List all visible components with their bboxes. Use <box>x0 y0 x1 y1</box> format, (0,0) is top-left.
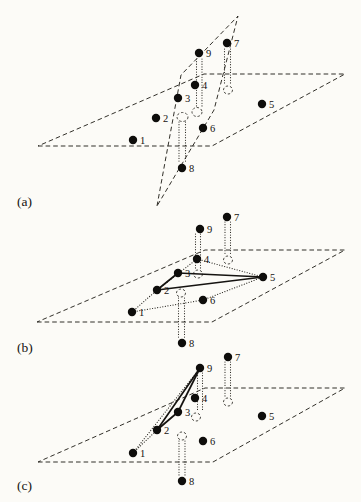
figure-page: 123456789(a)123456789(b)123456789(c) <box>0 0 361 502</box>
subfigure-c-point-dot-9 <box>196 364 204 372</box>
subfigure-a-point-dot-6 <box>199 124 207 132</box>
subfigure-b-point-label-3: 3 <box>185 268 190 279</box>
subfigure-a-point-label-6: 6 <box>210 123 215 134</box>
subfigure-c-point-label-2: 2 <box>164 425 169 436</box>
subfigure-c-point-dot-7 <box>224 353 232 361</box>
subfigure-c-solid-edge-3-9 <box>178 368 200 412</box>
subfigure-b-point-dot-3 <box>174 269 182 277</box>
planes-points-figure: 123456789(a)123456789(b)123456789(c) <box>0 0 361 502</box>
subfigure-c-point-dot-2 <box>153 426 161 434</box>
subfigure-c-point-dot-5 <box>258 412 266 420</box>
subfigure-c-point-label-9: 9 <box>207 363 212 374</box>
subfigure-a-point-dot-8 <box>178 164 186 172</box>
subfigure-c-point-label-4: 4 <box>202 393 208 404</box>
subfigure-b-point-dot-4 <box>193 255 201 263</box>
subfigure-c-point-dot-3 <box>174 408 182 416</box>
subfigure-b-point-label-8: 8 <box>189 338 194 349</box>
subfigure-label-c: (c) <box>17 478 32 493</box>
subfigure-b-point-dot-7 <box>223 213 231 221</box>
subfigure-b-point-dot-2 <box>153 286 161 294</box>
subfigure-c-projection-mark-9 <box>192 413 201 421</box>
subfigure-b-point-dot-1 <box>128 308 136 316</box>
subfigure-a-point-label-5: 5 <box>269 99 274 110</box>
subfigure-b-point-label-1: 1 <box>139 307 144 318</box>
subfigure-b-projection-mark-7 <box>224 256 233 264</box>
subfigure-a-point-label-1: 1 <box>140 135 145 146</box>
subfigure-a-point-dot-5 <box>258 100 266 108</box>
subfigure-a-projection-mark-7 <box>224 86 233 94</box>
subfigure-a-point-dot-4 <box>191 81 199 89</box>
subfigure-b-projection-mark-8 <box>177 289 186 297</box>
subfigure-c-point-label-6: 6 <box>210 436 215 447</box>
subfigure-b-point-dot-8 <box>178 339 186 347</box>
subfigure-a-point-label-4: 4 <box>202 80 208 91</box>
subfigure-c-projection-mark-8 <box>178 432 187 440</box>
subfigure-c-point-label-1: 1 <box>140 448 145 459</box>
subfigure-a-point-dot-1 <box>129 136 137 144</box>
subfigure-c-point-label-7: 7 <box>235 352 240 363</box>
subfigure-b-dotted-edge-1-2 <box>132 290 157 312</box>
subfigure-b-point-label-2: 2 <box>164 285 169 296</box>
subfigure-a-point-dot-9 <box>195 49 203 57</box>
subfigure-a-point-dot-3 <box>174 94 182 102</box>
subfigure-c-point-dot-8 <box>178 477 186 485</box>
subfigure-c-point-label-3: 3 <box>185 407 190 418</box>
subfigure-a-point-dot-2 <box>152 114 160 122</box>
subfigure-a-point-label-2: 2 <box>163 113 168 124</box>
subfigure-b-point-label-7: 7 <box>234 212 239 223</box>
subfigure-label-a: (a) <box>17 194 32 209</box>
subfigure-a-point-label-7: 7 <box>234 38 239 49</box>
subfigure-a-projection-mark-8 <box>177 113 188 122</box>
subfigure-a-projection-mark-9 <box>192 108 202 117</box>
subfigure-b-point-label-9: 9 <box>207 224 212 235</box>
subfigure-c-point-label-8: 8 <box>189 476 194 487</box>
subfigure-a-point-label-9: 9 <box>206 48 211 59</box>
subfigure-b-point-label-6: 6 <box>210 295 215 306</box>
subfigure-b-point-label-4: 4 <box>204 254 210 265</box>
subfigure-c-point-label-5: 5 <box>269 411 274 422</box>
subfigure-label-b: (b) <box>17 340 33 355</box>
subfigure-c-point-dot-4 <box>191 394 199 402</box>
subfigure-b-point-dot-9 <box>196 225 204 233</box>
subfigure-c-projection-mark-7 <box>224 398 233 406</box>
subfigure-c-point-dot-1 <box>129 449 137 457</box>
subfigure-a-point-label-8: 8 <box>189 163 194 174</box>
subfigure-b-point-dot-6 <box>199 296 207 304</box>
subfigure-b-point-label-5: 5 <box>270 272 275 283</box>
subfigure-c-point-dot-6 <box>199 437 207 445</box>
subfigure-b-point-dot-5 <box>259 273 267 281</box>
subfigure-a-point-dot-7 <box>223 39 231 47</box>
subfigure-a-point-label-3: 3 <box>185 93 190 104</box>
